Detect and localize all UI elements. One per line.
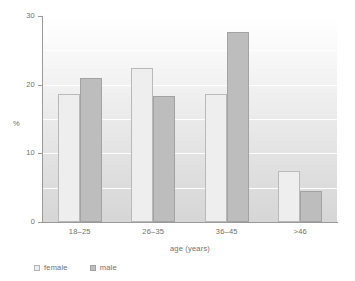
bar-female-18-25 (58, 94, 80, 222)
gridline (43, 50, 337, 51)
y-tick-label: 30 (7, 12, 35, 20)
x-axis-tick-labels: 18–2526–3536–45>46 (43, 227, 337, 239)
legend: femalemale (34, 263, 117, 272)
bar-female-36-45 (205, 94, 227, 222)
legend-swatch-icon (90, 265, 96, 271)
x-axis-line (42, 222, 338, 223)
y-tick-mark (38, 153, 42, 154)
y-tick-label: 10 (7, 149, 35, 157)
y-axis-line (42, 16, 43, 223)
y-tick-mark (38, 16, 42, 17)
y-tick-mark (38, 222, 42, 223)
gridline (43, 16, 337, 17)
legend-item-male: male (90, 263, 117, 272)
bar-male-36-45 (227, 32, 249, 222)
x-tick-label: 18–25 (43, 227, 117, 236)
bar-female-26-35 (131, 68, 153, 222)
legend-item-female: female (34, 263, 68, 272)
legend-label: female (44, 263, 68, 272)
bar-male-26-35 (153, 96, 175, 222)
x-axis-title: age (years) (43, 244, 337, 253)
x-tick-label: >46 (264, 227, 338, 236)
y-tick-mark (38, 85, 42, 86)
x-tick-label: 36–45 (190, 227, 264, 236)
plot-area (43, 16, 337, 222)
y-tick-label: 20 (7, 81, 35, 89)
legend-label: male (100, 263, 117, 272)
bar-male--46 (300, 191, 322, 222)
y-axis-title: % (13, 120, 20, 128)
bar-female--46 (278, 171, 300, 222)
y-tick-label: 0 (7, 218, 35, 226)
bar-male-18-25 (80, 78, 102, 222)
y-axis-tick-labels: 0102030 (0, 0, 35, 281)
x-tick-label: 26–35 (117, 227, 191, 236)
legend-swatch-icon (34, 265, 40, 271)
bar-chart: 0102030 % 18–2526–3536–45>46 age (years)… (0, 0, 355, 281)
